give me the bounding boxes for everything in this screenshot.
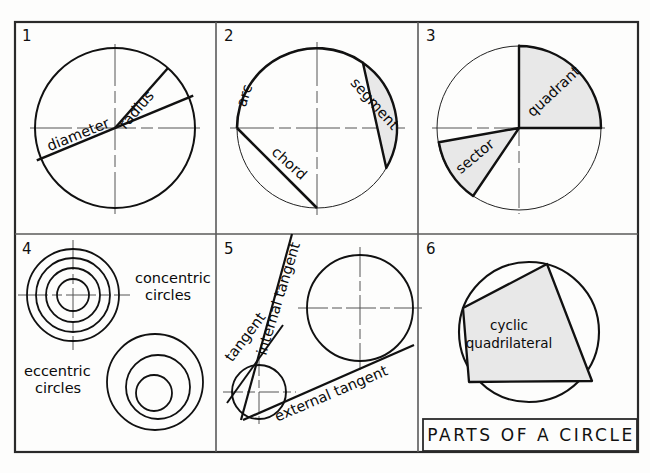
panel-6: 6 cyclic quadrilateral bbox=[426, 240, 599, 402]
panel-4-number: 4 bbox=[22, 240, 32, 258]
panel-3-number: 3 bbox=[426, 27, 436, 45]
panel-4-label-eccentric-1: eccentric bbox=[24, 363, 91, 379]
panel-1: 1 radius diameter circumference bbox=[0, 0, 203, 217]
panel-1-label-circumference: circumference bbox=[0, 0, 104, 3]
panel-6-label-cyclic-2: quadrilateral bbox=[466, 335, 552, 351]
panel-2-arc-line bbox=[237, 48, 363, 128]
panel-2: 2 arc segment chord bbox=[224, 27, 405, 215]
panel-4-label-concentric-1: concentric bbox=[135, 270, 211, 286]
panel-4-label-concentric-2: circles bbox=[145, 287, 191, 303]
panel-4-label-eccentric-2: circles bbox=[35, 380, 81, 396]
panel-5-number: 5 bbox=[224, 240, 234, 258]
panel-2-number: 2 bbox=[224, 27, 234, 45]
panel-1-number: 1 bbox=[22, 27, 32, 45]
panel-5-large-circle-centre-lines bbox=[298, 247, 422, 370]
panel-4-eccentric-circles bbox=[107, 334, 203, 430]
panel-6-label-cyclic-1: cyclic bbox=[490, 317, 528, 333]
panel-1-label-radius: radius bbox=[115, 88, 156, 132]
panel-1-centre-lines bbox=[30, 44, 203, 214]
drawing-sheet: 1 radius diameter circumference 2 bbox=[0, 0, 650, 473]
panel-5-label-external-tangent: external tangent bbox=[272, 362, 390, 424]
panel-2-label-chord: chord bbox=[269, 144, 310, 183]
panel-4-centre-lines bbox=[18, 240, 130, 350]
panel-3: 3 quadrant sector bbox=[426, 27, 605, 214]
panel-5-label-internal-tangent: internal tangent bbox=[253, 240, 303, 357]
panel-6-number: 6 bbox=[426, 240, 436, 258]
title-block: PARTS OF A CIRCLE bbox=[423, 419, 637, 451]
panel-4: 4 concentric circles eccentric circles bbox=[18, 240, 211, 430]
panel-2-label-arc: arc bbox=[233, 82, 255, 108]
panel-5: 5 tangent internal tangent external tang… bbox=[222, 234, 422, 428]
title-block-text: PARTS OF A CIRCLE bbox=[427, 425, 635, 445]
